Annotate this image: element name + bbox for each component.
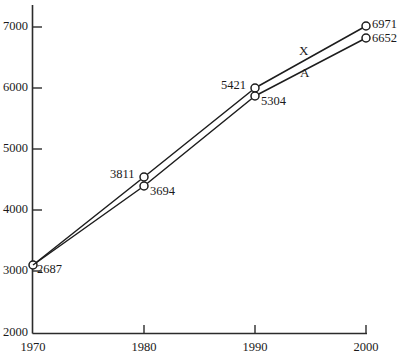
y-tick-label-2000: 2000: [0, 326, 28, 339]
point-label-5304: 5304: [261, 95, 286, 108]
y-tick-marks: [33, 27, 43, 271]
point-label-3811: 3811: [110, 168, 135, 181]
point-label-6652: 6652: [372, 32, 397, 45]
x-tick-label-1980: 1980: [124, 341, 164, 354]
series-x-point-1980: [140, 173, 148, 181]
series-x-point-2000: [362, 22, 370, 30]
y-tick-label-5000: 5000: [0, 142, 28, 155]
point-label-3694: 3694: [150, 185, 175, 198]
y-tick-label-6000: 6000: [0, 81, 28, 94]
series-label-x: X: [299, 44, 308, 57]
y-tick-label-7000: 7000: [0, 20, 28, 33]
y-tick-label-4000: 4000: [0, 203, 28, 216]
series-a-point-1980: [140, 182, 148, 190]
series-label-a: A: [300, 66, 309, 79]
series-x-point-1990: [251, 84, 259, 92]
x-tick-label-2000: 2000: [346, 341, 386, 354]
series-a-line: [33, 38, 366, 265]
x-tick-label-1970: 1970: [13, 341, 53, 354]
series-a-point-2000: [362, 34, 370, 42]
series-a: [33, 34, 370, 265]
point-label-6971: 6971: [372, 18, 397, 31]
y-tick-label-3000: 3000: [0, 264, 28, 277]
x-tick-label-1990: 1990: [235, 341, 275, 354]
point-label-2687: 2687: [37, 263, 62, 276]
x-tick-marks: [144, 325, 366, 334]
series-a-point-1990: [251, 92, 259, 100]
point-label-5421: 5421: [221, 79, 246, 92]
